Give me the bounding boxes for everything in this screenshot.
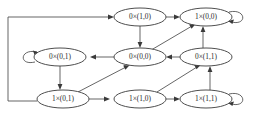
edge-0x00-to-0x01 [90, 55, 114, 60]
edge-1x01-to-1x10 [89, 97, 110, 102]
edge-1x10-to-1x11 [166, 97, 180, 102]
node-label-0x11: 0×(1,1) [195, 52, 218, 61]
edge-1x01-to-0x00 [78, 65, 130, 92]
node-0x10[interactable]: 0×(1,0) [114, 8, 166, 26]
node-layer: 0×(1,0) 1×(0,0) 0×(0,1) 0×(0,0) 0×(1,1) [34, 8, 232, 108]
edge-0x11-to-1x00 [201, 26, 206, 48]
node-label-0x01: 0×(0,1) [49, 52, 72, 61]
node-label-0x10: 0×(1,0) [129, 12, 152, 21]
node-label-0x00: 0×(0,0) [129, 52, 152, 61]
edge-0x11-to-0x00 [166, 55, 180, 60]
state-transition-graph: 0×(1,0) 1×(0,0) 0×(0,1) 0×(0,0) 0×(1,1) [0, 0, 254, 117]
node-1x11[interactable]: 1×(1,1) [180, 90, 232, 108]
node-1x01[interactable]: 1×(0,1) [37, 90, 89, 108]
node-label-1x00: 1×(0,0) [195, 12, 218, 21]
graph-svg: 0×(1,0) 1×(0,0) 0×(0,1) 0×(0,0) 0×(1,1) [0, 0, 254, 117]
node-label-1x11: 1×(1,1) [195, 94, 218, 103]
node-1x10[interactable]: 1×(1,0) [114, 90, 166, 108]
node-1x00[interactable]: 1×(0,0) [180, 8, 232, 26]
edge-0x10-to-1x00 [166, 15, 180, 20]
node-label-1x01: 1×(0,1) [52, 94, 75, 103]
node-0x11[interactable]: 0×(1,1) [180, 48, 232, 66]
edge-0x01-to-1x01 [58, 66, 63, 90]
edge-1x10-to-0x11 [157, 65, 201, 92]
node-0x01[interactable]: 0×(0,1) [34, 48, 86, 66]
edge-1x11-to-0x11 [208, 66, 213, 90]
node-0x00[interactable]: 0×(0,0) [114, 48, 166, 66]
edge-0x10-to-0x00 [138, 26, 143, 48]
node-label-1x10: 1×(1,0) [129, 94, 152, 103]
